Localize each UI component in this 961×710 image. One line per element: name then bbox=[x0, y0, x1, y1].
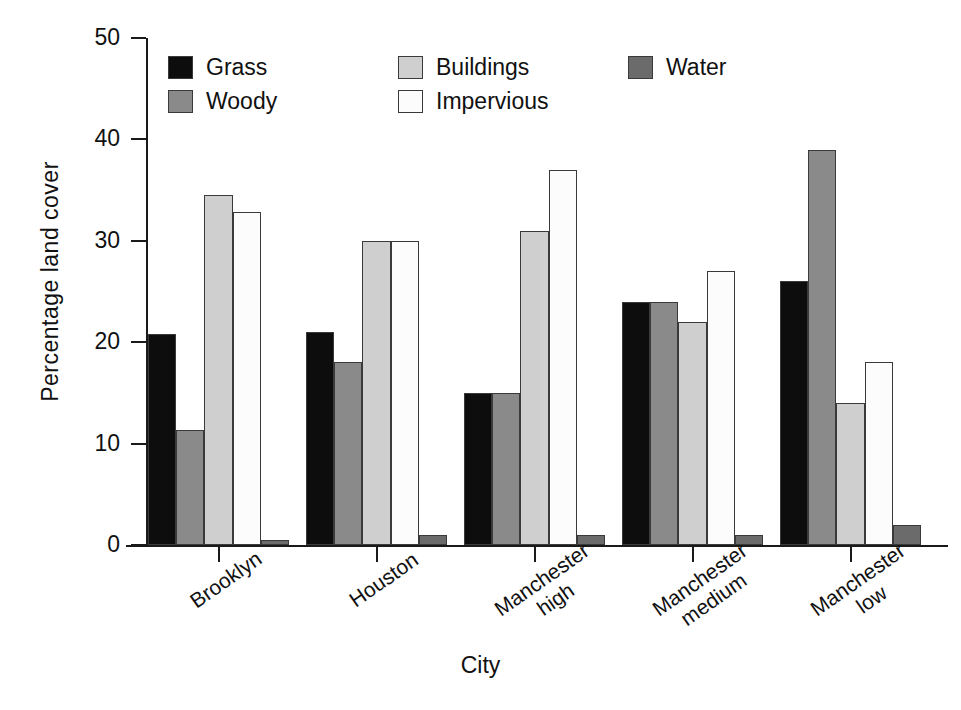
x-axis-tick bbox=[218, 547, 220, 562]
y-axis-tick-label: 10 bbox=[62, 432, 120, 455]
bar-woody-manchester-medium bbox=[650, 302, 678, 545]
legend-label: Impervious bbox=[436, 90, 548, 113]
x-axis-tick bbox=[692, 547, 694, 562]
y-axis-tick bbox=[131, 443, 146, 445]
bar-buildings-houston bbox=[362, 241, 390, 545]
legend-item-buildings: Buildings bbox=[398, 50, 628, 84]
bar-impervious-manchester-low bbox=[865, 362, 893, 545]
bar-impervious-manchester-high bbox=[549, 170, 577, 545]
legend-label: Grass bbox=[206, 56, 267, 79]
bar-grass-manchester-low bbox=[780, 281, 808, 545]
y-axis-title: Percentage land cover bbox=[37, 132, 64, 432]
bar-buildings-manchester-medium bbox=[678, 322, 706, 545]
legend-swatch-impervious-icon bbox=[398, 90, 423, 113]
bar-grass-houston bbox=[306, 332, 334, 545]
y-axis-tick-label: 20 bbox=[62, 330, 120, 353]
bar-woody-brooklyn bbox=[176, 430, 204, 545]
legend-swatch-water-icon bbox=[628, 56, 653, 79]
bar-grass-manchester-high bbox=[464, 393, 492, 545]
legend-item-water: Water bbox=[628, 50, 728, 84]
y-axis-tick bbox=[131, 138, 146, 140]
legend-label: Water bbox=[666, 56, 727, 79]
bar-grass-brooklyn bbox=[148, 334, 176, 545]
legend-swatch-buildings-icon bbox=[398, 56, 423, 79]
legend-item-woody: Woody bbox=[168, 84, 398, 118]
x-axis-tick bbox=[376, 547, 378, 562]
x-axis-title: City bbox=[0, 652, 961, 679]
chart-figure: Percentage land cover 01020304050 Brookl… bbox=[0, 0, 961, 710]
x-axis-line bbox=[126, 545, 948, 547]
bar-woody-manchester-low bbox=[808, 150, 836, 545]
bar-buildings-manchester-high bbox=[520, 231, 548, 545]
legend-label: Woody bbox=[206, 90, 277, 113]
y-axis-tick-label: 30 bbox=[62, 229, 120, 252]
legend-swatch-grass-icon bbox=[168, 56, 193, 79]
x-axis-tick bbox=[534, 547, 536, 562]
y-axis-tick bbox=[131, 37, 146, 39]
legend-item-impervious: Impervious bbox=[398, 84, 628, 118]
bar-impervious-manchester-medium bbox=[707, 271, 735, 545]
legend-label: Buildings bbox=[436, 56, 529, 79]
bar-impervious-brooklyn bbox=[233, 212, 261, 545]
x-axis-tick bbox=[850, 547, 852, 562]
y-axis-tick-label: 0 bbox=[62, 533, 120, 556]
bar-grass-manchester-medium bbox=[622, 302, 650, 545]
legend-item-grass: Grass bbox=[168, 50, 398, 84]
bar-buildings-manchester-low bbox=[836, 403, 864, 545]
y-axis-tick-label: 50 bbox=[62, 26, 120, 49]
bar-woody-houston bbox=[334, 362, 362, 545]
bar-woody-manchester-high bbox=[492, 393, 520, 545]
bar-impervious-houston bbox=[391, 241, 419, 545]
legend-swatch-woody-icon bbox=[168, 90, 193, 113]
bar-buildings-brooklyn bbox=[204, 195, 232, 545]
y-axis-tick-label: 40 bbox=[62, 127, 120, 150]
y-axis-tick bbox=[131, 240, 146, 242]
chart-legend: GrassWoodyBuildingsImperviousWater bbox=[168, 50, 728, 118]
y-axis-tick bbox=[131, 341, 146, 343]
